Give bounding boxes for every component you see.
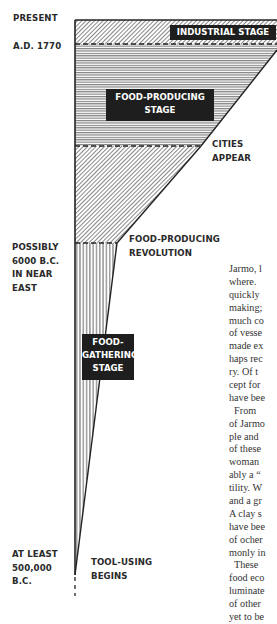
cities-era-region [75,146,201,243]
label-500000-bc: AT LEAST 500,000 B.C. [12,548,58,589]
label-cities-appear: CITIES APPEAR [212,138,251,165]
label-food-producing-revolution: FOOD-PRODUCING REVOLUTION [129,233,220,260]
food-producing-stage-box: FOOD-PRODUCING STAGE [106,89,214,121]
label-present: PRESENT [13,12,58,26]
label-6000-bc: POSSIBLY 6000 B.C. IN NEAR EAST [12,241,59,295]
industrial-stage-box: INDUSTRIAL STAGE [170,25,276,40]
article-text-column: Jarmo, l where. quickly making; much co … [229,263,266,624]
label-ad-1770: A.D. 1770 [13,40,61,54]
label-tool-using-begins: TOOL-USING BEGINS [91,556,152,583]
food-gathering-stage-box: FOOD- GATHERING STAGE [82,334,134,380]
